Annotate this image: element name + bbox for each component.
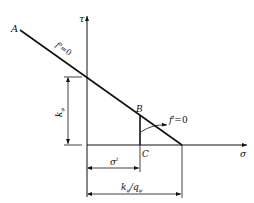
k-phi-label: kφ [54,108,66,117]
k-over-q-label: kφ/qφ [121,182,143,194]
tension-failure-label: ft=0 [168,114,188,125]
point-c-label: C [142,149,149,159]
tau-axis-label: τ [79,13,85,24]
svg-text:kφ: kφ [54,108,66,117]
point-a-label: A [10,23,18,34]
shear-failure-line [20,30,182,145]
failure-envelope-diagram: A τ σ B C fs=0 ft=0 kφ σt kφ/qφ [0,0,254,203]
sigma-t-label: σt [110,156,119,167]
point-b-label: B [135,104,143,114]
sigma-axis-label: σ [240,149,247,159]
